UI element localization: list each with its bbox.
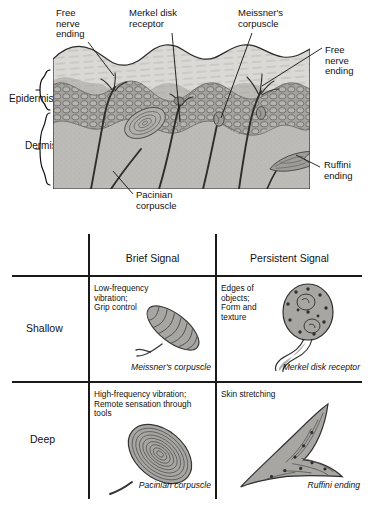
table-vline-1	[88, 234, 90, 499]
leader-lines	[0, 0, 370, 230]
dermis-brace	[36, 113, 50, 185]
caption-merkel-disk-receptor: Merkel disk receptor	[221, 362, 360, 372]
epidermis-brace	[36, 70, 50, 110]
pacinian-corpuscle-icon	[102, 416, 212, 504]
meissners-corpuscle-icon	[132, 290, 214, 372]
table-hline-rows	[12, 381, 362, 383]
merkel-disk-receptor-icon	[264, 282, 348, 374]
receptor-comparison-table: Brief Signal Persistent Signal Shallow D…	[12, 234, 362, 499]
row-header-deep: Deep	[30, 433, 55, 445]
table-hline-header	[12, 275, 362, 277]
cell-description-deep-brief: High-frequency vibration; Remote sensati…	[94, 390, 214, 419]
caption-ruffini-ending: Ruffini ending	[221, 480, 360, 490]
caption-meissners-corpuscle: Meissner's corpuscle	[94, 362, 211, 372]
figure-page: Free nerve ending Merkel disk receptor M…	[0, 0, 370, 509]
column-header-persistent-signal: Persistent Signal	[217, 252, 362, 264]
row-header-shallow: Shallow	[26, 322, 63, 334]
cell-description-deep-persistent: Skin stretching	[221, 390, 341, 400]
column-header-brief-signal: Brief Signal	[90, 252, 215, 264]
caption-pacinian-corpuscle: Pacinian corpuscle	[94, 480, 211, 490]
table-vline-2	[215, 234, 217, 499]
